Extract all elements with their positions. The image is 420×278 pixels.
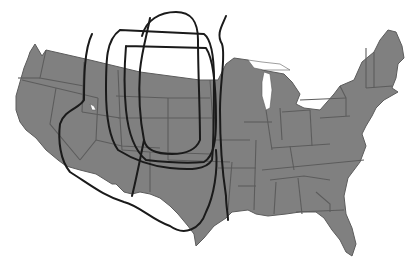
city-dot-new-orleans [256,223,260,227]
map-figure [0,0,420,278]
us-map [0,0,420,278]
city-dot-florida [336,247,340,251]
